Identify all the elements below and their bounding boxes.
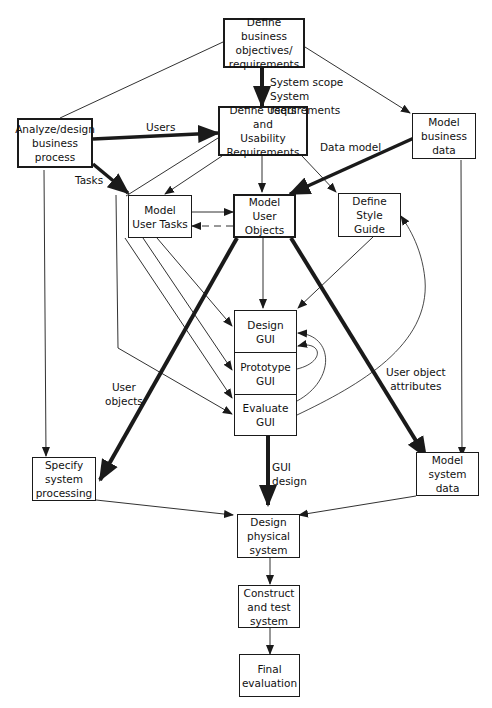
node-label: Design physical system: [247, 515, 290, 557]
node-analyze-design-business-process: Analyze/design business process: [17, 118, 93, 168]
node-design-gui: Design GUI: [234, 310, 297, 353]
node-label: Design GUI: [237, 318, 294, 346]
node-model-user-tasks: Model User Tasks: [128, 195, 192, 238]
node-label: Analyze/design business process: [15, 122, 95, 164]
node-specify-system-processing: Specify system processing: [32, 457, 96, 501]
node-model-business-data: Model business data: [412, 113, 476, 159]
node-final-evaluation: Final evaluation: [239, 654, 300, 697]
node-label: Evaluate GUI: [237, 401, 294, 429]
node-construct-test-system: Construct and test system: [238, 585, 300, 628]
node-design-physical-system: Design physical system: [237, 514, 300, 558]
node-label: Define business objectives/ requirements: [227, 15, 301, 71]
node-model-user-objects: Model User Objects: [233, 194, 296, 238]
node-label: Specify system processing: [36, 458, 93, 500]
node-label: Define Style Guide: [352, 194, 386, 236]
node-label: Model system data: [429, 453, 467, 495]
node-label: Construct and test system: [244, 586, 295, 628]
edge-label-gui-design: GUI design: [272, 460, 307, 488]
node-label: Final evaluation: [242, 662, 297, 690]
edge-label-data-model: Data model: [320, 140, 381, 154]
node-define-style-guide: Define Style Guide: [338, 193, 401, 237]
node-evaluate-gui: Evaluate GUI: [234, 394, 297, 436]
node-label: Prototype GUI: [240, 360, 291, 388]
node-label: Model business data: [421, 115, 467, 157]
edge-label-users: Users: [146, 120, 175, 134]
node-prototype-gui: Prototype GUI: [234, 352, 297, 395]
node-model-system-data: Model system data: [416, 452, 479, 496]
node-label: Model User Objects: [245, 195, 285, 237]
node-define-business-objectives: Define business objectives/ requirements: [223, 18, 305, 68]
node-label: Model User Tasks: [132, 203, 187, 231]
edge-label-system-scope: System scope System requirements: [270, 75, 380, 117]
edge-label-user-object-attributes: User object attributes: [386, 365, 446, 393]
edge-label-user-objects: User objects: [105, 380, 143, 408]
edge-label-tasks: Tasks: [75, 173, 103, 187]
